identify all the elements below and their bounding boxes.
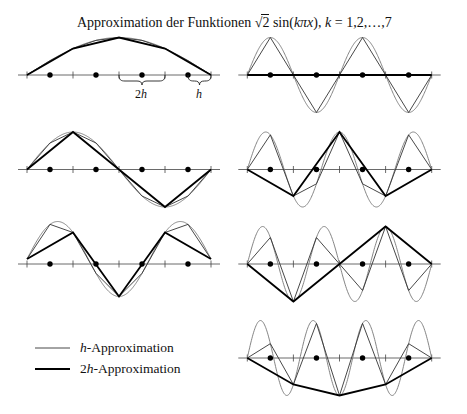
brace-label-2h: 2h: [135, 87, 147, 101]
fine-node-dot: [406, 167, 411, 172]
exact-function-curve: [27, 38, 211, 75]
panel-k2: [18, 132, 220, 207]
panel-k6: [238, 227, 440, 302]
panel-k5: [238, 132, 440, 207]
panel-k4: [238, 38, 440, 113]
figure: Approximation der Funktionen √2 sin(kπx)…: [0, 0, 467, 414]
fine-node-dot: [139, 167, 144, 172]
figure-title: Approximation der Funktionen √2 sin(kπx)…: [77, 14, 392, 31]
fine-node-dot: [268, 167, 273, 172]
fine-node-dot: [47, 72, 52, 77]
legend-label-prefix: 2: [80, 361, 87, 376]
legend-label-2h-approximation: 2h-Approximation: [80, 361, 181, 377]
fine-node-dot: [47, 167, 52, 172]
fine-node-dot: [360, 261, 365, 266]
legend-label-h-approximation: h-Approximation: [80, 340, 174, 356]
fine-node-dot: [314, 355, 319, 360]
title-function-close: ),: [313, 15, 325, 30]
fine-node-dot: [185, 167, 190, 172]
title-function-open: sin(: [269, 15, 294, 30]
fine-node-dot: [47, 261, 52, 266]
figure-canvas: [0, 0, 467, 414]
fine-node-dot: [406, 261, 411, 266]
legend-label-text: -Approximation: [87, 340, 174, 355]
title-index-range: = 1,2,…,7: [331, 15, 391, 30]
fine-node-dot: [93, 167, 98, 172]
brace-label-h: h: [196, 87, 202, 101]
fine-node-dot: [93, 72, 98, 77]
title-function-argument: kπx: [294, 15, 313, 30]
2h-approximation-line: [27, 38, 211, 75]
brace-h: [188, 75, 211, 85]
panel-k7: [238, 321, 440, 396]
title-prefix: Approximation der Funktionen: [77, 15, 255, 30]
fine-node-dot: [268, 261, 273, 266]
h-approximation-line: [27, 224, 211, 296]
legend-label-text: -Approximation: [94, 361, 181, 376]
fine-node-dot: [406, 355, 411, 360]
panel-k3: [18, 222, 220, 297]
legend-label-variable: h: [80, 340, 87, 355]
fine-node-dot: [314, 261, 319, 266]
exact-function-curve: [27, 222, 211, 297]
brace-label-2h-variable: h: [141, 87, 147, 101]
fine-node-dot: [268, 355, 273, 360]
fine-node-dot: [185, 261, 190, 266]
panel-k1: [18, 38, 220, 79]
fine-node-dot: [360, 355, 365, 360]
h-approximation-line: [27, 38, 211, 75]
2h-approximation-line: [247, 132, 431, 196]
fine-node-dot: [139, 72, 144, 77]
legend-label-variable: h: [87, 361, 94, 376]
